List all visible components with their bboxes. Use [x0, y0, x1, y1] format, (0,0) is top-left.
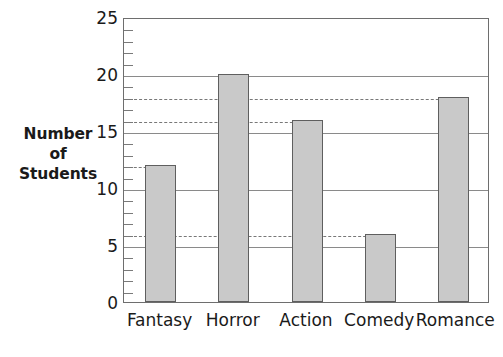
y-axis-minor-tick — [124, 213, 133, 214]
y-axis-tick-label: 10 — [80, 181, 118, 198]
x-axis-tick-labels: FantasyHorrorActionComedyRomance — [123, 311, 489, 341]
y-axis-minor-tick — [124, 110, 133, 111]
y-axis-tick-label: 15 — [80, 124, 118, 141]
x-axis-label-horror: Horror — [196, 311, 269, 330]
plot-area — [123, 18, 489, 303]
bar-fantasy — [145, 165, 176, 302]
y-axis-minor-tick — [124, 258, 133, 259]
x-axis-label-fantasy: Fantasy — [123, 311, 196, 330]
x-axis-label-comedy: Comedy — [343, 311, 416, 330]
y-axis-minor-tick — [124, 224, 133, 225]
y-axis-tick-labels: 0510152025 — [80, 0, 118, 357]
bar-comedy — [365, 234, 396, 302]
y-axis-minor-tick — [124, 87, 133, 88]
bar-romance — [438, 97, 469, 302]
y-axis-minor-tick — [124, 65, 133, 66]
y-axis-minor-tick — [124, 42, 133, 43]
y-axis-tick-label: 20 — [80, 67, 118, 84]
bar-chart-figure: Number of Students 0510152025 FantasyHor… — [0, 0, 503, 357]
y-axis-minor-ticks — [124, 19, 136, 302]
bar-action — [292, 120, 323, 302]
y-axis-minor-tick — [124, 201, 133, 202]
y-axis-tick-label: 25 — [80, 10, 118, 27]
y-axis-minor-tick — [124, 293, 133, 294]
bar-horror — [218, 74, 249, 302]
y-axis-tick-label: 5 — [80, 238, 118, 255]
y-axis-minor-tick — [124, 30, 133, 31]
y-axis-minor-tick — [124, 270, 133, 271]
gridline — [124, 76, 488, 77]
x-axis-label-romance: Romance — [416, 311, 489, 330]
y-axis-tick-label: 0 — [80, 295, 118, 312]
x-axis-label-action: Action — [269, 311, 342, 330]
y-axis-minor-tick — [124, 53, 133, 54]
y-axis-minor-tick — [124, 179, 133, 180]
dashed-guide-romance — [124, 99, 469, 100]
y-axis-minor-tick — [124, 156, 133, 157]
y-axis-minor-tick — [124, 281, 133, 282]
y-axis-minor-tick — [124, 144, 133, 145]
